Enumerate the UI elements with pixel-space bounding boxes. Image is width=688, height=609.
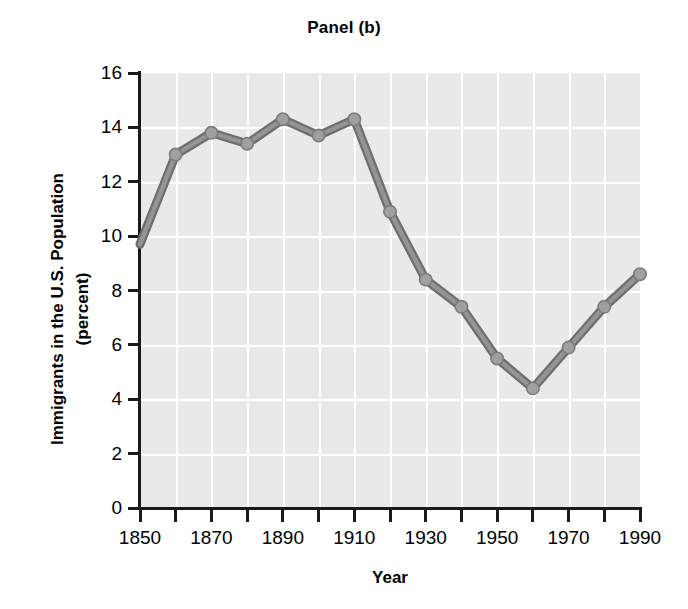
x-axis-title: Year bbox=[140, 568, 640, 588]
data-point-marker bbox=[455, 301, 467, 313]
data-point-marker bbox=[598, 301, 610, 313]
data-point-marker bbox=[491, 352, 503, 364]
data-point-marker bbox=[420, 273, 432, 285]
data-point-marker bbox=[634, 268, 646, 280]
data-point-marker bbox=[384, 205, 396, 217]
data-series-layer bbox=[0, 0, 688, 609]
data-point-marker bbox=[277, 113, 289, 125]
data-point-marker bbox=[170, 148, 182, 160]
data-point-marker bbox=[205, 127, 217, 139]
data-point-marker bbox=[527, 382, 539, 394]
data-point-marker bbox=[312, 129, 324, 141]
chart-figure: Panel (b) Immigrants in the U.S. Populat… bbox=[0, 0, 688, 609]
data-point-marker bbox=[348, 113, 360, 125]
data-point-marker bbox=[241, 137, 253, 149]
series-immigrants-percent bbox=[140, 113, 646, 395]
data-point-marker bbox=[562, 341, 574, 353]
